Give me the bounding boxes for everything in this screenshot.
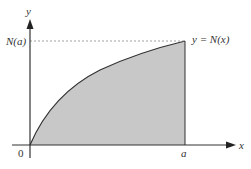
origin-label: 0 [18,147,24,159]
area-under-curve-diagram: y x 0 a N(a) y = N(x) [0,0,251,169]
y-axis-arrow-icon [27,19,34,29]
shaded-area [30,41,185,145]
curve-label: y = N(x) [191,33,230,46]
x-axis-label: x [238,139,244,151]
x-axis-arrow-icon [226,142,236,149]
a-label: a [181,147,187,159]
y-axis-label: y [25,5,31,17]
n-a-label: N(a) [5,35,27,48]
